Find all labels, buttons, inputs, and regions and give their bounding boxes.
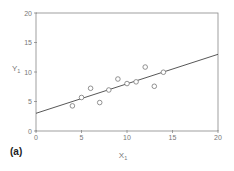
y-tick-label: 10 xyxy=(24,69,32,76)
data-point xyxy=(107,88,112,93)
x-tick-label: 20 xyxy=(214,134,222,141)
data-point xyxy=(70,104,75,109)
scatter-chart: 05101520 05101520 Y1 X1 (a) xyxy=(0,0,234,171)
data-point xyxy=(134,80,139,85)
y-tick-label: 15 xyxy=(24,39,32,46)
plot-border xyxy=(36,13,218,131)
x-axis-label: X1 xyxy=(119,151,127,161)
x-tick-label: 0 xyxy=(34,134,38,141)
data-point xyxy=(143,65,148,70)
plot-frame xyxy=(36,13,218,131)
data-point xyxy=(97,100,102,105)
y-axis-label: Y1 xyxy=(12,64,20,74)
x-tick-label: 10 xyxy=(123,134,131,141)
x-tick-label: 5 xyxy=(80,134,84,141)
data-point xyxy=(79,95,84,100)
x-tick-label: 15 xyxy=(169,134,177,141)
data-point xyxy=(125,81,130,86)
y-axis-ticks: 05101520 xyxy=(24,10,37,135)
y-tick-label: 0 xyxy=(28,128,32,135)
panel-label: (a) xyxy=(10,146,22,157)
data-point xyxy=(116,77,121,82)
data-point xyxy=(88,86,93,91)
data-point xyxy=(152,84,157,89)
y-tick-label: 5 xyxy=(28,98,32,105)
x-axis-ticks: 05101520 xyxy=(34,130,222,141)
y-tick-label: 20 xyxy=(24,10,32,17)
data-point xyxy=(161,70,166,75)
